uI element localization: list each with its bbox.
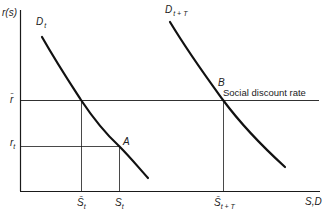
point-label-a: A [122,136,130,147]
social-discount-rate-label: Social discount rate [223,87,306,98]
y-axis-label: r(s) [2,7,17,18]
y-tick-r-bar: r̄ [10,93,14,105]
curve-label-d-t: Dt [36,16,47,29]
x-tick-s-bar-t-plus-T: S̄t + T [214,196,236,210]
x-tick-s-bar-t: S̄t [77,196,87,210]
demand-curve-d-t [42,37,148,178]
curve-label-d-t-plus-T: Dt + T [165,4,188,17]
x-axis-label: S,D [305,196,322,207]
x-tick-s-t: St [115,197,125,210]
diagram-canvas: r(s) S,D Dt Dt + T A B Social discount r… [0,0,329,215]
y-tick-r-t: rt [10,137,16,150]
